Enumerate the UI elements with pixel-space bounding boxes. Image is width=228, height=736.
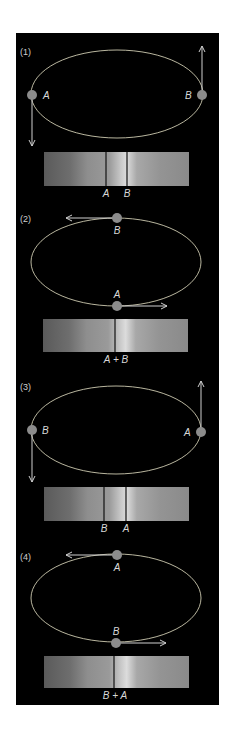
spectrum-label-b: B <box>124 188 131 199</box>
panel-2: (2) B A A + B <box>20 213 201 365</box>
panel-1: (1) A B A B <box>20 46 207 199</box>
star-a-label: A <box>183 427 191 438</box>
star-b <box>112 213 122 223</box>
panel-2-label: (2) <box>20 214 31 224</box>
star-b <box>197 90 207 100</box>
star-b-label: B <box>42 425 49 436</box>
star-b <box>111 638 121 648</box>
orbit-ellipse <box>31 50 203 138</box>
spectrum-label-merged: A + B <box>103 354 129 365</box>
star-b-label: B <box>185 90 192 101</box>
panel-4-label: (4) <box>20 552 31 562</box>
spectrum-label-b: B <box>101 523 108 534</box>
panel-4: (4) A B B + A <box>20 550 201 701</box>
star-a-label: A <box>113 289 121 300</box>
panel-3-label: (3) <box>20 382 31 392</box>
star-b-label: B <box>114 225 121 236</box>
star-a <box>112 301 122 311</box>
spectrum-bar <box>44 152 189 186</box>
star-a <box>196 427 206 437</box>
panel-3: (3) B A B A <box>20 381 206 534</box>
star-a <box>112 550 122 560</box>
star-a <box>27 90 37 100</box>
spectrum-label-a: A <box>122 523 130 534</box>
star-a-label: A <box>113 562 121 573</box>
star-b <box>27 425 37 435</box>
spectrum-label-a: A <box>102 188 110 199</box>
spectrum-label-merged: B + A <box>103 690 128 701</box>
spectrum-bar <box>44 487 189 521</box>
spectrum-bar <box>44 656 189 688</box>
star-b-label: B <box>113 626 120 637</box>
star-a-label: A <box>42 90 50 101</box>
orbit-ellipse <box>31 386 201 474</box>
binary-star-diagram: (1) A B A B (2) B A A + B (3) B A <box>0 0 228 736</box>
panel-1-label: (1) <box>20 47 31 57</box>
